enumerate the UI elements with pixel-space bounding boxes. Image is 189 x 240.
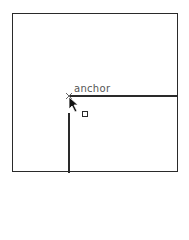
resize-handle-icon[interactable] bbox=[82, 111, 88, 117]
vertical-guide-line[interactable] bbox=[68, 113, 70, 173]
horizontal-guide-line[interactable] bbox=[70, 95, 178, 97]
arrow-cursor-icon bbox=[68, 96, 80, 114]
anchor-label: anchor bbox=[74, 83, 110, 95]
